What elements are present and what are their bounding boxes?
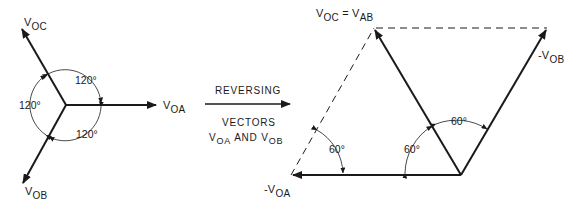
neg-vob-vector [461,30,546,175]
voa-label: VOA [163,100,185,115]
vob-vector [23,105,66,183]
angle-label-upper-middle: 60° [451,116,467,127]
voc-equals-vab-label: VOC = VAB [316,8,373,23]
reversing-label: REVERSING [215,86,281,96]
angle-label-top: 120° [75,75,97,86]
vob-label: VOB [25,186,47,201]
voc-vector [22,29,66,105]
phasor-diagram-canvas [0,0,580,210]
angle-label-bottom-middle: 60° [404,144,420,155]
voc-label: VOC [24,17,47,32]
angle-label-bottom: 120° [76,129,98,140]
left-phasor-star [22,29,156,183]
voa-and-vob-label: VOA AND VOB [209,133,283,146]
vectors-label: VECTORS [222,118,276,128]
neg-vob-label: -VOB [538,50,564,65]
angle-label-left-vertex: 60° [329,144,345,155]
angle-label-left: 120° [19,100,41,111]
neg-voa-label: -VOA [264,184,290,199]
